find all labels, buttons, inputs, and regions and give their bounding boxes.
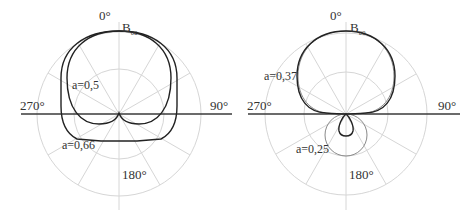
left-curve-label-a066: a=0,66 <box>62 138 95 152</box>
right-curve-label-a037: a=0,37 <box>264 69 297 83</box>
right-curve-label-a025: a=0,25 <box>296 142 329 156</box>
left-label-270deg: 270° <box>20 98 45 113</box>
left-curve-label-a05: a=0,5 <box>72 78 99 92</box>
right-label-270deg: 270° <box>247 98 272 113</box>
right-polar-grid <box>265 22 427 210</box>
left-label-180deg: 180° <box>122 167 147 182</box>
right-label-0deg: 0° <box>330 8 342 23</box>
polar-diagrams: 0° 90° 180° 270° Bθ0 a=0,5 a=0,66 0° 90°… <box>0 0 474 213</box>
left-peak-label: Bθ0 <box>122 20 138 37</box>
left-label-90deg: 90° <box>210 98 228 113</box>
right-label-90deg: 90° <box>438 98 456 113</box>
right-peak-label: Bθ0 <box>350 20 366 37</box>
right-label-180deg: 180° <box>349 167 374 182</box>
left-label-0deg: 0° <box>99 8 111 23</box>
